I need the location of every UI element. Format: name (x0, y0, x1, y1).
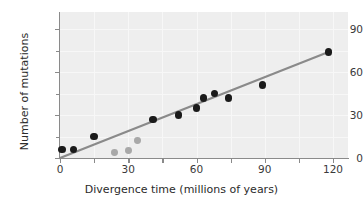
data-point (200, 94, 208, 102)
gridline-horizontal (60, 29, 348, 30)
x-tick-label: 60 (177, 164, 217, 175)
y-axis-line (59, 12, 60, 159)
plot-panel (60, 12, 348, 158)
gridline-vertical (162, 12, 163, 158)
y-tick-30 (55, 115, 59, 116)
data-point (149, 116, 157, 124)
y-tick-minor (56, 94, 60, 95)
x-tick-minor (162, 159, 163, 163)
y-tick-minor (56, 137, 60, 138)
y-tick-90 (55, 29, 59, 30)
y-tick-label: 90 (317, 24, 363, 35)
x-tick-minor (231, 159, 232, 163)
data-point (175, 111, 183, 119)
scatter-plot-figure: 0 30 60 90 0 30 60 90 120 Divergence tim… (0, 0, 363, 208)
y-tick-minor (56, 51, 60, 52)
y-tick-label: 0 (317, 153, 363, 164)
y-tick-60 (55, 72, 59, 73)
x-tick-label: 120 (313, 164, 353, 175)
gridline-horizontal (60, 51, 348, 52)
data-point (325, 48, 333, 56)
gridline-horizontal (60, 72, 348, 73)
y-tick-label: 30 (317, 110, 363, 121)
data-point (134, 137, 141, 144)
x-tick-minor (299, 159, 300, 163)
gridline-vertical (231, 12, 232, 158)
gridline-vertical (197, 12, 198, 158)
x-tick-label: 30 (108, 164, 148, 175)
y-axis-title: Number of mutations (18, 17, 31, 167)
data-point (125, 147, 132, 154)
gridline-horizontal (60, 137, 348, 138)
x-tick-label: 0 (40, 164, 80, 175)
y-tick-label: 60 (317, 67, 363, 78)
x-tick-minor (94, 159, 95, 163)
gridline-vertical (128, 12, 129, 158)
data-point (225, 94, 233, 102)
data-point (193, 104, 201, 112)
data-point (90, 133, 98, 141)
gridline-horizontal (60, 115, 348, 116)
x-tick-label: 90 (245, 164, 285, 175)
x-axis-title: Divergence time (millions of years) (0, 183, 363, 196)
gridline-vertical (299, 12, 300, 158)
data-point (259, 81, 267, 89)
data-point (111, 149, 118, 156)
y-tick-0 (55, 158, 59, 159)
x-axis-line (59, 158, 349, 159)
